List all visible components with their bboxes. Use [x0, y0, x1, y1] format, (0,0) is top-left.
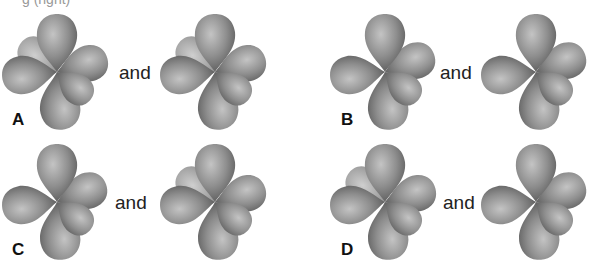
- option-b[interactable]: and B: [293, 10, 586, 147]
- orbital-with-back-lobe-icon: [160, 142, 270, 262]
- orbital-without-back-lobe-icon: [481, 12, 591, 132]
- cutoff-caption: g (right): [22, 0, 70, 7]
- connector-text: and: [119, 62, 151, 84]
- option-label: B: [341, 110, 353, 130]
- connector-text: and: [443, 192, 475, 214]
- option-label: D: [341, 240, 353, 260]
- option-label: C: [12, 240, 24, 260]
- orbital-with-back-lobe-icon: [160, 12, 270, 132]
- orbital-without-back-lobe-icon: [481, 142, 591, 262]
- connector-text: and: [440, 62, 472, 84]
- option-a[interactable]: and A: [0, 10, 293, 147]
- option-d[interactable]: and D: [293, 140, 586, 274]
- option-label: A: [12, 110, 24, 130]
- connector-text: and: [115, 192, 147, 214]
- option-c[interactable]: and C: [0, 140, 293, 274]
